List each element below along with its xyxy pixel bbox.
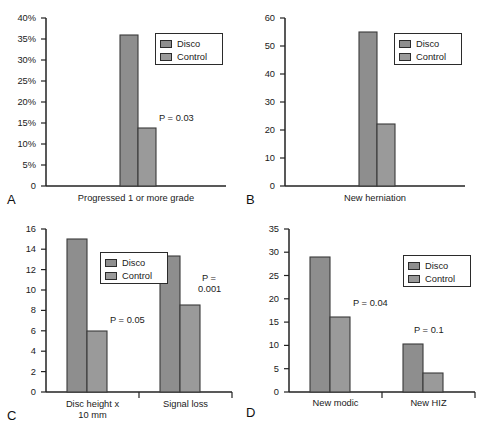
panel-b-legend-row-disco: Disco	[399, 37, 456, 50]
panel-d-pvalue-g2: P = 0.1	[414, 325, 444, 336]
panel-d-legend-label-disco: Disco	[425, 261, 448, 271]
panel-a-ytick-25: 25%	[2, 76, 36, 86]
panel-a-category-label: Progressed 1 or more grade	[46, 193, 226, 204]
panel-c-x-ticks	[139, 392, 232, 398]
panel-c-pvalue-g1: P = 0.05	[110, 315, 145, 326]
panel-c-legend: Disco Control	[100, 252, 168, 284]
panel-a-bar-control	[138, 128, 156, 186]
panel-d-pvalue-g1: P = 0.04	[353, 298, 388, 309]
panel-a: 0 5% 10% 15% 20% 25% 30% 35% 40% P = 0.0…	[0, 0, 239, 215]
panel-c-ytick-0: 0	[4, 387, 36, 397]
panel-c-category-label-1-line2: 10 mm	[46, 410, 139, 421]
panel-c-legend-label-control: Control	[122, 271, 152, 281]
panel-a-ytick-0: 0	[2, 181, 36, 191]
panel-a-ytick-20: 20%	[2, 97, 36, 107]
panel-c-category-label-1-line1: Disc height x	[46, 399, 139, 410]
panel-a-legend-label-disco: Disco	[177, 39, 200, 49]
panel-c-pvalue-g2-line2: 0.001	[198, 284, 221, 295]
panel-d-bar-g1-disco	[310, 257, 330, 392]
panel-c-letter: C	[7, 408, 16, 423]
panel-b-legend-label-disco: Disco	[416, 39, 439, 49]
panel-d-category-label-1: New modic	[289, 398, 382, 409]
panel-d-ytick-0: 0	[245, 387, 279, 397]
panel-c-ytick-10: 10	[4, 285, 36, 295]
panel-b-ytick-60: 60	[241, 13, 275, 23]
panel-d-ytick-30: 30	[245, 247, 279, 257]
panel-c-ytick-2: 2	[4, 367, 36, 377]
panel-b-ytick-30: 30	[241, 97, 275, 107]
panel-a-legend-label-control: Control	[177, 52, 207, 62]
legend-swatch-control-icon	[399, 53, 411, 61]
legend-swatch-disco-icon	[408, 262, 420, 270]
panel-d-ytick-35: 35	[245, 224, 279, 234]
panel-b-ytick-20: 20	[241, 125, 275, 135]
panel-c-pvalue-g2-line1: P =	[202, 273, 216, 284]
panel-a-legend: Disco Control	[155, 33, 223, 65]
panel-d-ytick-15: 15	[245, 317, 279, 327]
panel-a-legend-row-control: Control	[160, 50, 217, 63]
panel-c-legend-row-disco: Disco	[105, 256, 162, 269]
panel-b-legend-row-control: Control	[399, 50, 456, 63]
panel-a-ytick-5: 5%	[2, 160, 36, 170]
panel-c-category-label-2: Signal loss	[139, 399, 232, 410]
panel-b-ytick-50: 50	[241, 41, 275, 51]
panel-d-ytick-5: 5	[245, 364, 279, 374]
panel-c-bar-g2-control	[180, 305, 200, 392]
legend-swatch-disco-icon	[105, 259, 117, 267]
panel-d-letter: D	[246, 405, 255, 420]
panel-a-ytick-10: 10%	[2, 139, 36, 149]
panel-b-bar-disco	[359, 32, 377, 186]
panel-d: 0 5 10 15 20 25 30 35 P = 0.04 P = 0.1 D…	[239, 215, 478, 430]
panel-d-category-label-2: New HIZ	[382, 398, 475, 409]
legend-swatch-control-icon	[105, 272, 117, 280]
panel-d-legend: Disco Control	[403, 255, 471, 287]
panel-b-category-label: New herniation	[285, 193, 465, 204]
panel-d-bar-g1-control	[330, 317, 350, 392]
panel-c-bar-g1-disco	[67, 239, 87, 392]
panel-b-legend: Disco Control	[394, 33, 462, 65]
panel-c-ytick-12: 12	[4, 265, 36, 275]
panel-d-ytick-20: 20	[245, 294, 279, 304]
panel-c-ytick-8: 8	[4, 305, 36, 315]
panel-d-legend-row-disco: Disco	[408, 259, 465, 272]
panel-a-ytick-30: 30%	[2, 55, 36, 65]
panel-c-legend-row-control: Control	[105, 269, 162, 282]
panel-c-bar-g1-control	[87, 331, 107, 392]
panel-c: 0 2 4 6 8 10 12 14 16 P = 0.05 P = 0.001…	[0, 215, 239, 430]
panel-c-ytick-6: 6	[4, 326, 36, 336]
legend-swatch-control-icon	[408, 275, 420, 283]
panel-c-legend-label-disco: Disco	[122, 258, 145, 268]
panel-c-ytick-16: 16	[4, 224, 36, 234]
panel-a-pvalue: P = 0.03	[159, 113, 194, 124]
panel-d-bar-g2-control	[423, 373, 443, 392]
panel-d-ytick-25: 25	[245, 271, 279, 281]
legend-swatch-control-icon	[160, 53, 172, 61]
panel-b-ytick-0: 0	[241, 181, 275, 191]
panel-b-bar-control	[377, 124, 395, 186]
panel-a-ytick-40: 40%	[2, 13, 36, 23]
panel-d-bar-g2-disco	[403, 344, 423, 392]
panel-c-ytick-4: 4	[4, 346, 36, 356]
panel-c-ytick-14: 14	[4, 244, 36, 254]
panel-a-ytick-35: 35%	[2, 34, 36, 44]
panel-a-letter: A	[7, 192, 16, 207]
legend-swatch-disco-icon	[399, 40, 411, 48]
panel-d-legend-row-control: Control	[408, 272, 465, 285]
panel-a-ytick-15: 15%	[2, 118, 36, 128]
panel-b-letter: B	[246, 192, 255, 207]
figure-bar-chart-panels: 0 5% 10% 15% 20% 25% 30% 35% 40% P = 0.0…	[0, 0, 478, 430]
legend-swatch-disco-icon	[160, 40, 172, 48]
panel-d-legend-label-control: Control	[425, 274, 455, 284]
panel-b-ytick-10: 10	[241, 153, 275, 163]
panel-a-bar-disco	[120, 35, 138, 186]
panel-b-ytick-40: 40	[241, 69, 275, 79]
panel-a-legend-row-disco: Disco	[160, 37, 217, 50]
panel-d-ytick-10: 10	[245, 340, 279, 350]
panel-b-legend-label-control: Control	[416, 52, 446, 62]
panel-b: 0 10 20 30 40 50 60 Disco Control B New …	[239, 0, 478, 215]
